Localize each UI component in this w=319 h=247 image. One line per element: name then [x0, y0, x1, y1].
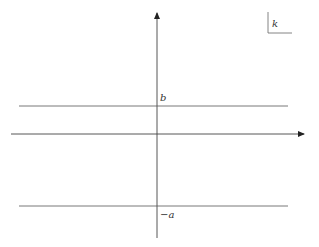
- corner-label: k: [272, 18, 278, 29]
- lower-line-label: −a: [160, 209, 174, 220]
- upper-line-label: b: [160, 92, 166, 103]
- diagram-canvas: b −a k: [0, 0, 319, 247]
- corner-label-box: k: [268, 12, 292, 33]
